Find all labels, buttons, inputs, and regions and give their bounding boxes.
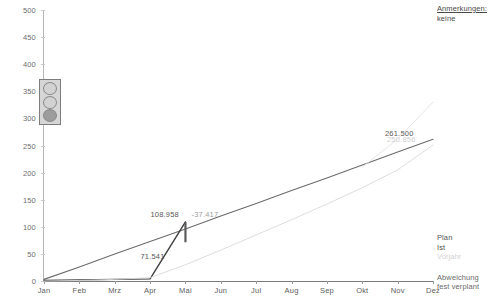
series-line-vorjahr [44, 145, 433, 281]
chart-series-layer [0, 0, 503, 300]
traffic-light-indicator[interactable] [39, 79, 61, 125]
notes-title: Anmerkungen: [437, 4, 499, 13]
ist-peak-label: 108.958 [150, 210, 179, 219]
legend-spacer [437, 262, 500, 273]
legend-item-ist[interactable]: Ist [437, 243, 500, 253]
chart-root: 050100150200250300350400450500 JanFebMrz… [0, 0, 503, 300]
traffic-light-lamp-middle [43, 96, 57, 109]
deviation-label: -37.417 [191, 210, 218, 219]
vorjahr-end-label: 250.856 [387, 135, 416, 144]
legend-item-abweichung[interactable]: Abweichung [437, 273, 500, 283]
series-line-plan [44, 139, 433, 279]
chart-legend: Plan Ist Vorjahr Abweichung fest verplan… [437, 233, 500, 292]
traffic-light-lamp-bottom [43, 109, 57, 122]
traffic-light-lamp-top [43, 82, 57, 95]
legend-item-vorjahr[interactable]: Vorjahr [437, 252, 500, 262]
legend-item-fest-verplant[interactable]: fest verplant [437, 282, 500, 292]
plan-at-mai-label: 71.541 [140, 252, 164, 261]
legend-item-plan[interactable]: Plan [437, 233, 500, 243]
notes-block: Anmerkungen: keine [437, 4, 499, 23]
notes-value: keine [437, 14, 499, 23]
